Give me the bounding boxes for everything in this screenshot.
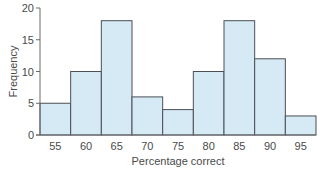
y-ticks-group: 05101520 bbox=[22, 2, 40, 141]
y-tick-label: 20 bbox=[22, 2, 34, 14]
histogram-chart: 05101520 556065707580859095 Percentage c… bbox=[0, 0, 320, 173]
y-tick-label: 0 bbox=[28, 129, 34, 141]
bar-95 bbox=[285, 116, 316, 135]
bar-90 bbox=[255, 59, 286, 135]
x-tick-label: 75 bbox=[172, 140, 184, 152]
x-tick-label: 70 bbox=[141, 140, 153, 152]
bar-60 bbox=[71, 72, 102, 136]
bars-group bbox=[40, 21, 316, 135]
y-tick-label: 5 bbox=[28, 97, 34, 109]
bar-55 bbox=[40, 103, 71, 135]
y-tick-label: 10 bbox=[22, 66, 34, 78]
x-tick-label: 80 bbox=[203, 140, 215, 152]
x-tick-label: 65 bbox=[111, 140, 123, 152]
x-tick-label: 90 bbox=[264, 140, 276, 152]
x-tick-label: 60 bbox=[80, 140, 92, 152]
bar-75 bbox=[163, 110, 194, 135]
x-axis-title: Percentage correct bbox=[132, 155, 225, 167]
x-tick-label: 95 bbox=[295, 140, 307, 152]
y-tick-label: 15 bbox=[22, 34, 34, 46]
bar-65 bbox=[101, 21, 132, 135]
x-tick-label: 85 bbox=[233, 140, 245, 152]
y-axis-title: Frequency bbox=[7, 45, 19, 97]
bar-80 bbox=[193, 72, 224, 136]
bar-70 bbox=[132, 97, 163, 135]
x-tick-label: 55 bbox=[49, 140, 61, 152]
bar-85 bbox=[224, 21, 255, 135]
x-ticks-group: 556065707580859095 bbox=[49, 140, 307, 152]
